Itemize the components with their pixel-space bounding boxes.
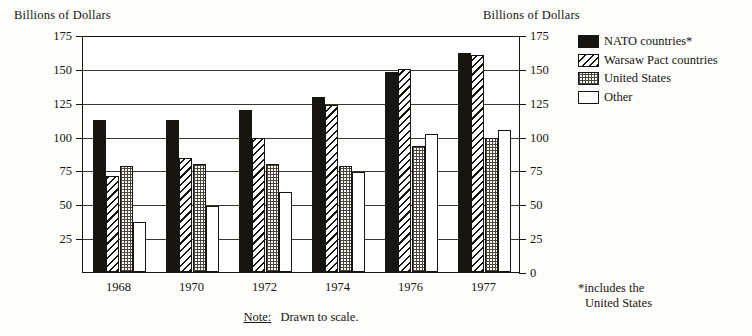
bar-1976-other — [425, 134, 438, 272]
bar-1977-united-states — [485, 138, 498, 272]
y-tick-label-right-175: 175 — [530, 29, 549, 44]
bar-1968-other — [133, 222, 146, 272]
legend-item-diagonal-hatch: Warsaw Pact countries — [578, 53, 718, 68]
x-axis-label-1970: 1970 — [179, 280, 204, 295]
x-axis-label-1974: 1974 — [325, 280, 350, 295]
footnote: *includes the United States — [578, 281, 652, 310]
x-axis-label-1976: 1976 — [398, 280, 423, 295]
y-tick-left-125 — [76, 104, 83, 105]
y-tick-left-175 — [76, 36, 83, 37]
y-tick-label-left-75: 75 — [60, 164, 73, 179]
y-tick-label-right-25: 25 — [530, 232, 543, 247]
legend-swatch-diagonal-hatch-icon — [578, 54, 599, 67]
chart-note: Note: Drawn to scale. — [244, 310, 359, 325]
y-tick-label-left-100: 100 — [53, 130, 72, 145]
y-tick-label-right-100: 100 — [530, 130, 549, 145]
legend-swatch-fine-dots-icon — [578, 72, 599, 85]
x-axis-label-1977: 1977 — [471, 280, 496, 295]
bar-1970-warsaw-pact-countries — [179, 158, 192, 272]
plot-area: 255075100125150175 0255075100125150175 — [82, 36, 520, 273]
bar-1968-united-states — [120, 166, 133, 272]
y-tick-left-100 — [76, 138, 83, 139]
bar-1970-other — [206, 206, 219, 272]
y-axis-title-right: Billions of Dollars — [483, 8, 580, 23]
y-tick-label-left-150: 150 — [53, 62, 72, 77]
y-tick-label-left-175: 175 — [53, 29, 72, 44]
y-axis-title-left: Billions of Dollars — [14, 8, 111, 23]
chart-legend: NATO countries*Warsaw Pact countriesUnit… — [578, 34, 718, 108]
bar-group-1970 — [156, 36, 229, 272]
footnote-line-1: *includes the — [578, 281, 644, 295]
bar-1970-united-states — [193, 164, 206, 272]
y-tick-left-25 — [76, 239, 83, 240]
note-keyword: Note: — [244, 310, 272, 324]
y-tick-right-0 — [519, 273, 526, 274]
bar-1968-nato-countries- — [93, 120, 106, 272]
bar-1974-warsaw-pact-countries — [325, 105, 338, 272]
legend-label: Other — [604, 90, 632, 105]
bar-1974-nato-countries- — [312, 97, 325, 272]
bar-group-1977 — [448, 36, 521, 272]
y-tick-label-left-125: 125 — [53, 96, 72, 111]
bar-1977-nato-countries- — [458, 53, 471, 272]
bar-1968-warsaw-pact-countries — [106, 176, 119, 272]
y-tick-label-left-50: 50 — [60, 198, 73, 213]
bar-groups — [83, 36, 519, 272]
y-tick-label-right-50: 50 — [530, 198, 543, 213]
legend-swatch-white-outline-icon — [578, 91, 599, 104]
bar-group-1972 — [229, 36, 302, 272]
legend-swatch-solid-black-icon — [578, 35, 599, 48]
y-tick-label-right-150: 150 — [530, 62, 549, 77]
y-tick-left-75 — [76, 171, 83, 172]
bar-group-1976 — [375, 36, 448, 272]
y-tick-left-150 — [76, 70, 83, 71]
note-text: Drawn to scale. — [280, 310, 358, 324]
bar-1972-warsaw-pact-countries — [252, 138, 265, 272]
bar-1972-other — [279, 192, 292, 272]
bar-1974-united-states — [339, 166, 352, 272]
bar-group-1968 — [83, 36, 156, 272]
bar-1977-other — [498, 130, 511, 272]
bar-1974-other — [352, 172, 365, 272]
y-tick-label-left-25: 25 — [60, 232, 73, 247]
bar-1976-warsaw-pact-countries — [398, 69, 411, 272]
bar-1972-nato-countries- — [239, 110, 252, 273]
legend-label: Warsaw Pact countries — [604, 53, 718, 68]
legend-item-white-outline: Other — [578, 90, 718, 105]
bar-1970-nato-countries- — [166, 120, 179, 272]
bar-1976-nato-countries- — [385, 72, 398, 272]
legend-item-solid-black: NATO countries* — [578, 34, 718, 49]
bar-1972-united-states — [266, 164, 279, 272]
legend-label: NATO countries* — [604, 34, 692, 49]
footnote-line-2: United States — [578, 296, 652, 311]
x-axis-label-1968: 1968 — [106, 280, 131, 295]
x-axis-label-1972: 1972 — [252, 280, 277, 295]
y-tick-label-right-125: 125 — [530, 96, 549, 111]
bar-1977-warsaw-pact-countries — [471, 55, 484, 272]
legend-item-fine-dots: United States — [578, 71, 718, 86]
bar-group-1974 — [302, 36, 375, 272]
y-tick-label-right-75: 75 — [530, 164, 543, 179]
bar-1976-united-states — [412, 146, 425, 272]
y-tick-label-right-0: 0 — [530, 266, 536, 281]
y-tick-left-50 — [76, 205, 83, 206]
legend-label: United States — [604, 71, 671, 86]
